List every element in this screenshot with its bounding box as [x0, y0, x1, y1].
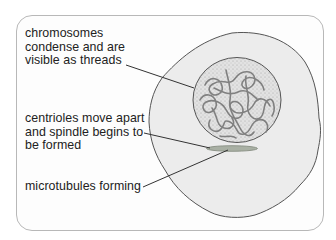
- label-centrioles: centrioles move apart and spindle begins…: [25, 112, 145, 153]
- label-microtubules: microtubules forming: [25, 180, 141, 194]
- label-chromosomes: chromosomes condense and are visible as …: [25, 27, 125, 68]
- spindle: [207, 146, 258, 152]
